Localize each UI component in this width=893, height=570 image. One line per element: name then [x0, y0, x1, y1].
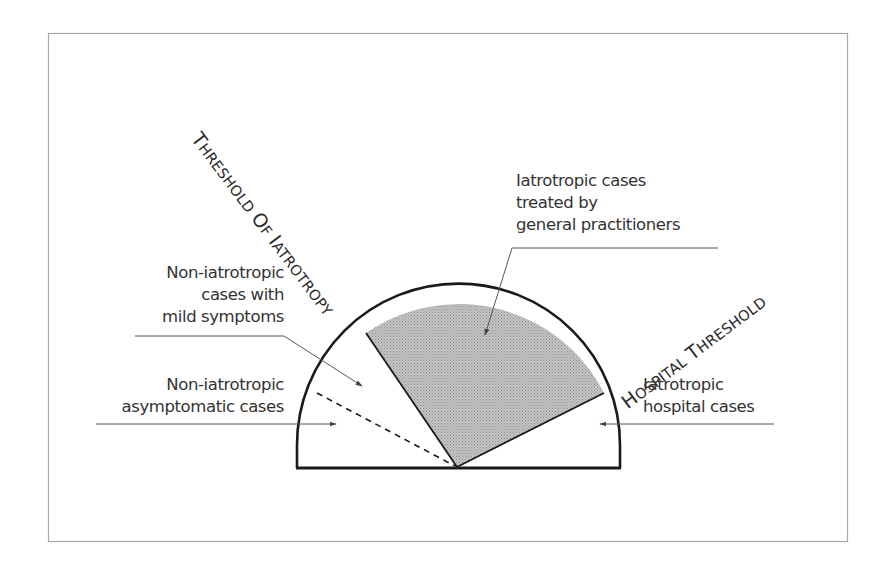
- label-hospital-cases: Iatrotropic hospital cases: [643, 374, 755, 418]
- label-mild-line-1: Non-iatrotropic: [162, 262, 284, 284]
- label-mild-cases: Non-iatrotropic cases with mild symptoms: [162, 262, 284, 328]
- label-hospital-line-1: Iatrotropic: [643, 374, 755, 396]
- label-gp-line-1: Iatrotropic cases: [516, 170, 680, 192]
- label-mild-line-3: mild symptoms: [162, 306, 284, 328]
- diagram-canvas: [0, 0, 893, 570]
- label-asymptomatic-line-2: asymptomatic cases: [122, 396, 284, 418]
- label-mild-line-2: cases with: [162, 284, 284, 306]
- label-gp-line-2: treated by: [516, 192, 680, 214]
- label-asymptomatic-cases: Non-iatrotropic asymptomatic cases: [122, 374, 284, 418]
- label-asymptomatic-line-1: Non-iatrotropic: [122, 374, 284, 396]
- label-gp-line-3: general practitioners: [516, 214, 680, 236]
- label-gp-cases: Iatrotropic cases treated by general pra…: [516, 170, 680, 236]
- label-hospital-line-2: hospital cases: [643, 396, 755, 418]
